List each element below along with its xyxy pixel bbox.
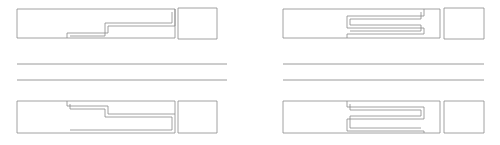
technical-drawing-canvas: [0, 0, 500, 145]
canvas-background: [0, 0, 500, 145]
